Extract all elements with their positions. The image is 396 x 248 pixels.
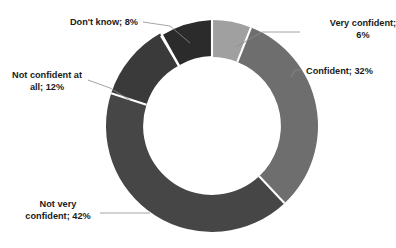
donut-chart: Very confident; 6% Confident; 32% Not ve… [0, 0, 396, 248]
label-not-very-confident-value: confident; 42% [25, 211, 90, 221]
slice-not-very-confident[interactable] [106, 93, 285, 232]
label-dont-know: Don't know; 8% [70, 17, 138, 27]
label-confident: Confident; 32% [306, 66, 373, 76]
slice-confident[interactable] [237, 27, 318, 203]
label-very-confident: Very confident; [330, 18, 396, 28]
label-very-confident-value: 6% [356, 30, 369, 40]
label-not-confident-at-all: Not confident at [12, 70, 82, 80]
donut-chart-svg: Very confident; 6% Confident; 32% Not ve… [0, 0, 396, 248]
label-not-confident-at-all-value: all; 12% [30, 82, 64, 92]
label-not-very-confident: Not very [40, 199, 78, 209]
donut-ring [106, 20, 318, 232]
